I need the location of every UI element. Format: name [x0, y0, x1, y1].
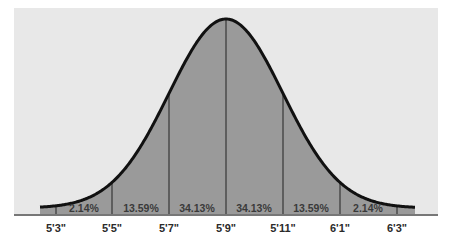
x-tick-label: 5'7" [159, 222, 179, 234]
segment-label: 13.59% [123, 202, 159, 214]
x-tick-label: 5'9" [216, 222, 236, 234]
segment-label: 34.13% [236, 202, 272, 214]
x-tick-label: 6'1" [330, 222, 350, 234]
x-tick-label: 5'3" [46, 222, 66, 234]
x-tick-labels: 5'3" 5'5" 5'7" 5'9" 5'11" 6'1" 6'3" [46, 222, 407, 234]
x-tick-label: 6'3" [387, 222, 407, 234]
x-tick-label: 5'5" [102, 222, 122, 234]
segment-label: 2.14% [69, 202, 99, 214]
segment-label: 2.14% [353, 202, 383, 214]
normal-distribution-chart: 2.14% 13.59% 34.13% 34.13% 13.59% 2.14% … [0, 0, 464, 244]
segment-label: 13.59% [293, 202, 329, 214]
segment-label: 34.13% [179, 202, 215, 214]
x-tick-label: 5'11" [270, 222, 296, 234]
